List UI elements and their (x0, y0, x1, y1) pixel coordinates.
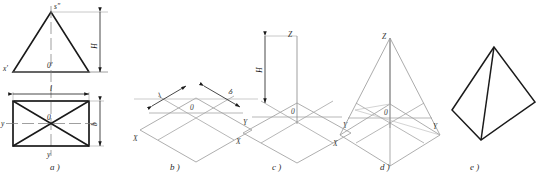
pyramid-outline (452, 47, 535, 140)
dimension-line-width-iso (204, 86, 240, 107)
caption-a: a ) (50, 162, 60, 172)
label-axis-x-c: X (235, 137, 241, 146)
label-origin-c: 0 (291, 107, 295, 116)
caption-b: b ) (170, 162, 180, 172)
label-axis-y-top: y (0, 119, 5, 128)
pyramid-lateral-edges (340, 38, 440, 166)
dimension-label-length: l (50, 84, 52, 93)
label-origin-b: 0 (190, 103, 194, 112)
label-origin-top: 0 (47, 113, 51, 122)
base-parallelogram (140, 98, 252, 162)
dimension-label-width: b (90, 122, 99, 126)
label-axis-z-c: Z (288, 30, 293, 39)
technical-drawing-figure: H l b s" 0' x' 0 y y l (0, 0, 542, 184)
panel-d-pyramid-wireframe: Z 0 X Y (332, 32, 440, 166)
caption-c: c ) (272, 162, 281, 172)
caption-d: d ) (380, 162, 390, 172)
label-apex-front: s" (54, 2, 61, 11)
pyramid-front-edge (481, 47, 494, 140)
label-origin-d: 0 (384, 108, 388, 117)
label-apex-z-d: Z (382, 32, 387, 41)
label-origin-front: 0' (47, 61, 53, 70)
dimension-label-width-iso: b (227, 87, 235, 97)
dimension-label-length-iso: l (157, 91, 163, 100)
label-axis-x-d: X (332, 139, 338, 148)
panel-b-isometric-base: l b 0 X Y (132, 86, 258, 162)
dimension-label-height-c: H (255, 67, 264, 74)
dimension-label-height: H (90, 43, 99, 50)
dimension-line-length-iso (152, 86, 186, 106)
drawing-canvas: H l b s" 0' x' 0 y y l (0, 0, 542, 184)
panel-a-orthographic: H l b s" 0' x' 0 y y (0, 2, 108, 159)
label-axis-y-b: Y (243, 118, 248, 127)
label-axis-x-b: X (132, 134, 138, 143)
label-axis-center-bottom: y (46, 150, 51, 159)
caption-e: e ) (470, 162, 479, 172)
label-axis-x-front: x' (2, 64, 8, 73)
panel-e-finished-pyramid (452, 47, 535, 140)
